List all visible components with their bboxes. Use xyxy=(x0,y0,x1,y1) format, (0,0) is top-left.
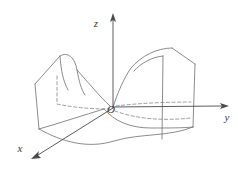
right-outer-top-edge xyxy=(172,48,195,64)
coordinate-axes xyxy=(31,13,229,159)
figure-canvas: z y x O xyxy=(0,0,238,169)
right-front-rim-curve xyxy=(134,56,163,71)
surface-visible-edges xyxy=(35,48,195,144)
left-outer-side-edge xyxy=(35,84,39,129)
right-outer-side-edge xyxy=(193,64,195,127)
x-axis-line xyxy=(38,108,113,155)
x-axis-label: x xyxy=(17,142,23,154)
axis-labels: z y x O xyxy=(17,17,230,154)
saddle-surface-figure: z y x O xyxy=(0,0,238,169)
y-axis-line xyxy=(113,106,222,107)
left-outer-top-edge xyxy=(35,56,60,84)
left-hidden-rear-curve xyxy=(57,104,110,109)
y-axis-label: y xyxy=(224,111,230,123)
x-axis-arrowhead xyxy=(31,151,41,159)
z-axis-label: z xyxy=(93,17,99,29)
origin-label: O xyxy=(107,103,115,115)
right-inner-vertical-edge xyxy=(162,56,163,139)
right-hidden-upper-curve xyxy=(116,102,191,106)
surface-hidden-edges xyxy=(57,76,191,119)
left-lower-front-edge xyxy=(39,109,104,129)
left-front-rim-curve xyxy=(60,56,68,90)
right-hidden-lower-curve xyxy=(115,111,191,119)
bottom-front-boundary-curve xyxy=(39,127,193,144)
